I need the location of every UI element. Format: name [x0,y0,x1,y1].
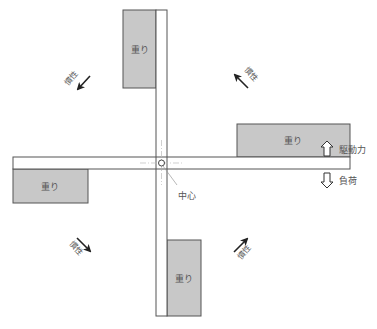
weight-bottom-label: 重り [175,273,193,284]
inertia-arrow-upper-right [235,75,248,88]
center-label: 中心 [178,190,196,201]
inertia-label-lower-right: 慣性 [235,243,253,262]
inertia-label-upper-right: 慣性 [243,65,261,84]
weight-left-label: 重り [41,181,59,192]
drive-force-label: 駆動力 [339,144,366,155]
inertia-arrow-upper-left [78,76,90,89]
inertia-label-lower-left: 慣性 [68,239,86,258]
load-arrow-icon [321,173,333,188]
inertia-label-upper-left: 慣性 [62,69,80,88]
weight-right-label: 重り [284,135,302,146]
load-label: 負荷 [339,175,357,186]
rotor-diagram: 重り 重り 重り 重り 慣性 慣性 慣性 慣性 中心 駆動力 負荷 [0,0,377,329]
weight-top-label: 重り [131,44,149,55]
